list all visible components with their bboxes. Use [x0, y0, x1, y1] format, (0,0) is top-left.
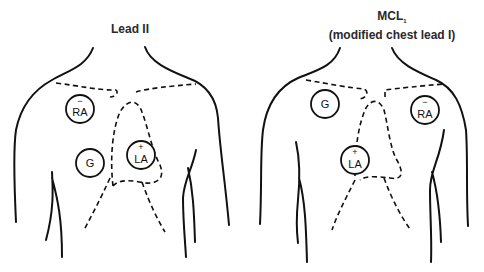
- electrode-placement-figure: Lead II MCL1 (modified chest lead I): [0, 0, 484, 272]
- electrode-la-left: + LA: [127, 141, 155, 169]
- svg-text:−: −: [422, 97, 427, 107]
- svg-text:LA: LA: [348, 158, 362, 170]
- electrode-ra-right: − RA: [411, 96, 439, 124]
- svg-text:+: +: [352, 147, 357, 157]
- torso-diagrams: − RA G + LA G: [0, 0, 484, 272]
- svg-text:−: −: [77, 96, 82, 106]
- svg-text:+: +: [138, 142, 143, 152]
- electrode-g-right: G: [311, 90, 339, 118]
- electrode-g-left: G: [76, 149, 104, 177]
- svg-text:RA: RA: [417, 108, 433, 120]
- svg-text:RA: RA: [72, 106, 88, 118]
- electrode-ra-left: − RA: [66, 95, 94, 123]
- svg-text:LA: LA: [134, 153, 148, 165]
- electrode-la-right: + LA: [341, 146, 369, 174]
- svg-text:G: G: [321, 98, 330, 110]
- svg-text:G: G: [86, 157, 95, 169]
- torso-outline-left: [14, 47, 229, 257]
